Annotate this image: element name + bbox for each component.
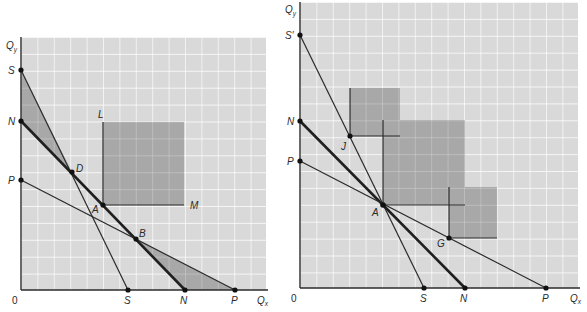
right-point-J (347, 133, 352, 138)
diagram-canvas: Qy S N P D A B L M 0 S N P Qx (0, 0, 587, 312)
left-point-P-x (232, 287, 237, 292)
right-point-N-y (297, 118, 302, 123)
left-label-M: M (190, 200, 199, 211)
right-point-N-x (462, 285, 467, 290)
left-origin-label: 0 (12, 295, 18, 306)
left-point-P-y (18, 177, 23, 182)
left-label-P-x: P (231, 295, 238, 306)
right-label-P-y: P (287, 156, 294, 167)
left-panel: Qy S N P D A B L M 0 S N P Qx (6, 37, 269, 307)
left-label-L: L (98, 109, 104, 120)
left-label-S-y: S (8, 65, 15, 76)
left-point-D (69, 169, 74, 174)
right-label-S-prime-y: S′ (285, 30, 295, 41)
right-label-S-x: S (420, 293, 427, 304)
right-point-P-y (297, 158, 302, 163)
left-point-N-y (18, 118, 23, 123)
right-panel: Qy S′ N P J A G 0 S N P Qx (285, 2, 582, 305)
left-shade-LM-square (103, 122, 184, 205)
left-point-N-x (182, 287, 187, 292)
left-point-B (133, 236, 138, 241)
right-label-G: G (437, 238, 445, 249)
right-label-A: A (371, 207, 379, 218)
left-label-N-y: N (8, 116, 16, 127)
left-label-A: A (91, 204, 99, 215)
left-label-P-y: P (8, 175, 15, 186)
left-y-axis-label: Qy (6, 40, 18, 54)
right-shade-G-square (449, 187, 497, 238)
right-y-axis-label: Qy (285, 4, 297, 18)
right-origin-label: 0 (291, 293, 297, 304)
right-label-N-y: N (287, 116, 295, 127)
left-point-S-y (18, 67, 23, 72)
left-point-S-x (125, 287, 130, 292)
left-label-B: B (139, 228, 146, 239)
right-point-S-x (421, 285, 426, 290)
right-point-G (446, 235, 451, 240)
right-point-A (380, 202, 386, 208)
right-point-S-prime-y (297, 32, 302, 37)
right-point-P-x (543, 285, 548, 290)
right-label-P-x: P (542, 293, 549, 304)
left-label-S-x: S (124, 295, 131, 306)
left-x-axis-label: Qx (257, 295, 269, 307)
left-label-D: D (76, 163, 83, 174)
right-label-J: J (340, 141, 347, 152)
left-label-N-x: N (180, 295, 188, 306)
left-point-LM-corner (100, 202, 105, 207)
right-x-axis-label: Qx (570, 293, 582, 305)
right-label-N-x: N (460, 293, 468, 304)
